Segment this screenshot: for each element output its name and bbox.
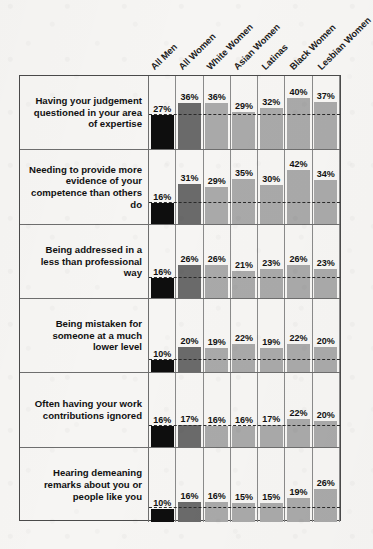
bar-cell: 21%: [231, 225, 258, 298]
bar-value-label: 15%: [235, 492, 253, 502]
bar: [151, 509, 174, 522]
bar: [151, 426, 174, 446]
bar-cell: 20%: [313, 373, 340, 446]
bar: [178, 103, 201, 149]
row-label: Needing to provide more evidence of your…: [20, 150, 149, 223]
bar-cell: 22%: [285, 373, 312, 446]
bar-cell: 23%: [313, 225, 340, 298]
row-label: Being addressed in a less than professio…: [20, 225, 149, 298]
bar-cell: 26%: [176, 225, 203, 298]
bar-value-label: 30%: [262, 174, 280, 184]
bar-cell: 22%: [231, 299, 258, 372]
bar-value-label: 16%: [153, 415, 171, 425]
bar: [287, 98, 310, 149]
bar-cell: 26%: [313, 448, 340, 522]
bar-value-label: 37%: [317, 91, 335, 101]
bar-cell: 35%: [231, 150, 258, 223]
bar: [151, 360, 174, 373]
bar: [151, 115, 174, 149]
bar-value-label: 19%: [208, 337, 226, 347]
column-header-white-women: White Women: [205, 22, 255, 72]
bar-value-label: 10%: [153, 349, 171, 359]
bar-cell: 19%: [285, 448, 312, 522]
bar-cell: 16%: [176, 448, 203, 522]
bar-value-label: 19%: [290, 487, 308, 497]
bar-cell: 30%: [258, 150, 285, 223]
bar-value-label: 15%: [262, 492, 280, 502]
bar-value-label: 16%: [153, 267, 171, 277]
bar: [260, 348, 283, 372]
row-plot-area: 16%26%26%21%23%26%23%: [149, 225, 340, 298]
bar-cell: 31%: [176, 150, 203, 223]
bar: [314, 269, 337, 298]
bar-cell: 22%: [285, 299, 312, 372]
bar-value-label: 16%: [208, 491, 226, 501]
bar: [314, 102, 337, 149]
bar-cell: 16%: [149, 373, 176, 446]
bar-cell: 17%: [176, 373, 203, 446]
column-header-lesbian-women: Lesbian Women: [316, 15, 373, 72]
table-row: Being mistaken for someone at a much low…: [20, 299, 340, 373]
table-row: Having your judgement questioned in your…: [20, 76, 340, 150]
row-label: Being mistaken for someone at a much low…: [20, 299, 149, 372]
bar: [314, 489, 337, 522]
bar-cell: 17%: [258, 373, 285, 446]
bar-value-label: 34%: [317, 169, 335, 179]
bar: [287, 265, 310, 298]
bar-cell: 20%: [313, 299, 340, 372]
bar-value-label: 23%: [317, 258, 335, 268]
bar-value-label: 35%: [235, 168, 253, 178]
bar-cell: 37%: [313, 76, 340, 149]
bar-cell: 10%: [149, 299, 176, 372]
bar-cell: 16%: [231, 373, 258, 446]
bar: [205, 502, 228, 522]
bar-cell: 42%: [285, 150, 312, 223]
bar-value-label: 21%: [235, 260, 253, 270]
bar-value-label: 17%: [262, 414, 280, 424]
bar-value-label: 16%: [153, 192, 171, 202]
bar-cell: 34%: [313, 150, 340, 223]
bar: [260, 185, 283, 223]
bar-cell: 26%: [204, 225, 231, 298]
column-header-group: All MenAll WomenWhite WomenAsian WomenLa…: [148, 0, 342, 75]
bar: [232, 503, 255, 522]
bar-value-label: 16%: [208, 415, 226, 425]
bar: [260, 503, 283, 522]
bar-value-label: 22%: [290, 333, 308, 343]
row-label: Hearing demeaning remarks about you or p…: [20, 448, 149, 522]
table-row: Being addressed in a less than professio…: [20, 225, 340, 299]
row-plot-area: 10%16%16%15%15%19%26%: [149, 448, 340, 522]
bar-value-label: 22%: [235, 333, 253, 343]
column-header-latinas: Latinas: [260, 42, 290, 72]
bar-cell: 27%: [149, 76, 176, 149]
bar-cell: 29%: [204, 150, 231, 223]
row-plot-area: 10%20%19%22%19%22%20%: [149, 299, 340, 372]
bar: [232, 344, 255, 372]
row-label: Often having your work contributions ign…: [20, 373, 149, 446]
row-plot-area: 27%36%36%29%32%40%37%: [149, 76, 340, 149]
bar: [205, 265, 228, 298]
bar-cell: 32%: [258, 76, 285, 149]
bar-cell: 19%: [204, 299, 231, 372]
bar-cell: 19%: [258, 299, 285, 372]
bar-value-label: 16%: [235, 415, 253, 425]
bar: [314, 180, 337, 223]
bar-value-label: 22%: [290, 408, 308, 418]
bar-value-label: 29%: [235, 101, 253, 111]
bar-value-label: 26%: [180, 254, 198, 264]
bar: [314, 347, 337, 373]
bar: [260, 108, 283, 149]
bar-cell: 29%: [231, 76, 258, 149]
bar-cell: 16%: [149, 150, 176, 223]
bar-value-label: 10%: [153, 498, 171, 508]
bar-value-label: 29%: [208, 176, 226, 186]
bar-value-label: 19%: [262, 337, 280, 347]
row-label: Having your judgement questioned in your…: [20, 76, 149, 149]
bar: [151, 278, 174, 298]
bar-value-label: 40%: [290, 87, 308, 97]
bar-value-label: 16%: [180, 491, 198, 501]
chart-data-table: Having your judgement questioned in your…: [19, 75, 341, 521]
bar-value-label: 20%: [317, 410, 335, 420]
bar: [178, 425, 201, 447]
bar-value-label: 20%: [180, 336, 198, 346]
